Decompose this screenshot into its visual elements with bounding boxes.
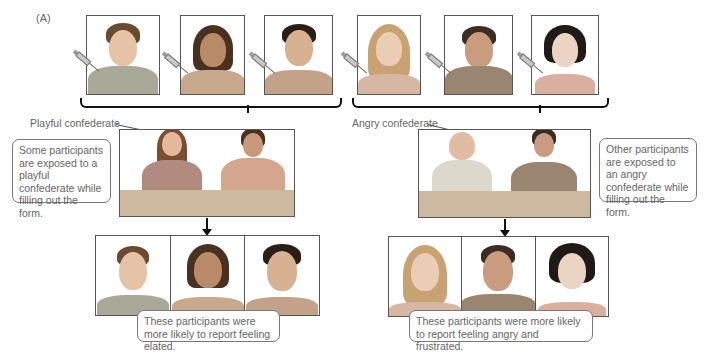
face <box>465 32 493 68</box>
torso <box>181 70 245 95</box>
playful-result-callout: These participants were more likely to r… <box>137 310 280 342</box>
torso <box>445 66 513 95</box>
face <box>552 33 578 67</box>
angry-result-callout: These participants were more likely to r… <box>409 310 593 342</box>
seated-participant <box>218 129 288 198</box>
panel-label: (A) <box>36 12 51 24</box>
participant-photo-1 <box>86 15 160 95</box>
result-face-elated-1 <box>96 236 171 315</box>
participant-photo-2 <box>180 15 245 95</box>
participant-photo-3 <box>264 15 333 95</box>
result-face-angry-1 <box>389 237 462 316</box>
playful-arrow <box>206 218 208 230</box>
angry-scene <box>418 129 591 218</box>
torso <box>535 74 595 95</box>
result-face-elated-2 <box>171 236 246 315</box>
right-group-brace <box>352 98 609 108</box>
result-face-angry-3 <box>536 237 608 316</box>
angry-results-strip <box>388 236 609 317</box>
participant-photo-4 <box>357 15 421 95</box>
table <box>419 191 590 217</box>
playful-scene <box>119 129 295 217</box>
left-group-brace-stem <box>247 105 249 113</box>
playful-confederate-label: Playful confederate <box>30 117 120 129</box>
playful-results-strip <box>95 235 320 316</box>
playful-callout: Some participants are exposed to a playf… <box>12 139 111 203</box>
right-group-brace-stem <box>539 105 541 113</box>
result-face-angry-2 <box>462 237 535 316</box>
left-group-brace <box>80 98 342 108</box>
torso <box>265 70 333 95</box>
result-face-elated-3 <box>245 236 319 315</box>
face <box>200 33 226 67</box>
participant-photo-6 <box>531 15 599 95</box>
angry-confederate-label: Angry confederate <box>352 117 438 129</box>
angry-arrow <box>504 219 506 231</box>
table <box>120 190 294 216</box>
angry-callout: Other participants are exposed to an ang… <box>599 138 697 202</box>
playful-confederate <box>140 129 204 198</box>
torso <box>358 74 420 95</box>
face <box>109 30 137 66</box>
face <box>376 32 402 66</box>
participant-photo-5 <box>444 15 513 95</box>
face <box>285 30 313 66</box>
